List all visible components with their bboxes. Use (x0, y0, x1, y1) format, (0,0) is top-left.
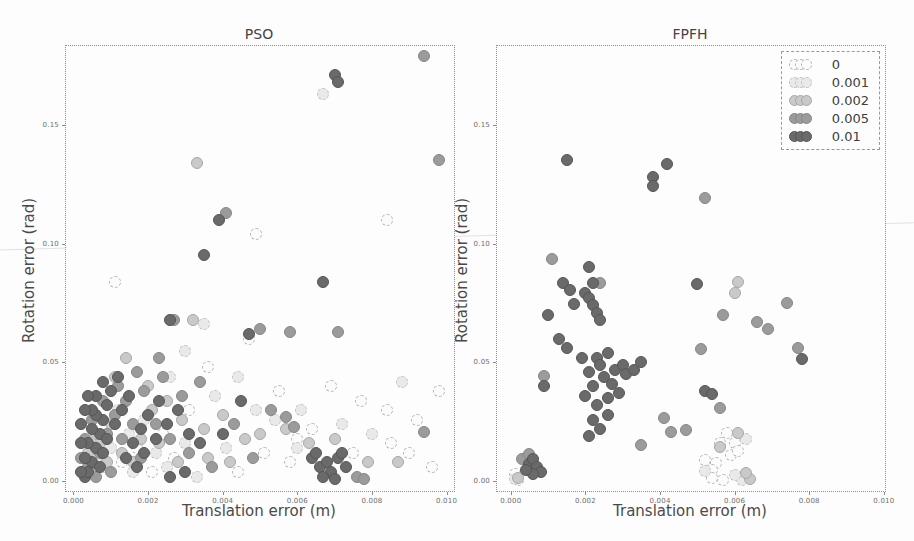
scatter-point-0 (385, 437, 397, 449)
scatter-point-0.01 (123, 390, 135, 402)
scatter-point-0 (250, 228, 262, 240)
scatter-point-0.01 (329, 473, 341, 485)
scatter-point-0.01 (587, 277, 599, 289)
scatter-point-0.002 (224, 456, 236, 468)
scatter-point-0 (109, 276, 121, 288)
scatter-point-0.005 (762, 323, 774, 335)
scatter-point-0.002 (329, 433, 341, 445)
scatter-point-0.001 (250, 404, 262, 416)
scatter-point-0 (717, 474, 729, 486)
y-tick-label: 0.00 (474, 477, 490, 485)
scatter-plot-pso: 0.0000.0020.0040.0060.0080.0100.000.050.… (65, 45, 455, 492)
scatter-point-0.005 (105, 466, 117, 478)
scatter-point-0.01 (79, 452, 91, 464)
scatter-point-0.005 (665, 426, 677, 438)
scatter-point-0.005 (717, 309, 729, 321)
scatter-point-0.01 (568, 298, 580, 310)
scatter-point-0.01 (561, 342, 573, 354)
scatter-point-0.002 (732, 427, 744, 439)
scatter-point-0.002 (714, 441, 726, 453)
scatter-point-0.005 (714, 402, 726, 414)
scatter-point-0.01 (198, 249, 210, 261)
y-tick-mark (62, 362, 65, 363)
scatter-point-0.002 (732, 276, 744, 288)
scatter-point-0.01 (310, 447, 322, 459)
legend-label: 0.001 (832, 75, 869, 90)
scatter-point-0.01 (602, 347, 614, 359)
legend-marker-icon (789, 59, 825, 70)
scatter-point-0.01 (142, 409, 154, 421)
scatter-point-0.005 (164, 433, 176, 445)
scatter-point-0.005 (699, 192, 711, 204)
scatter-point-0.002 (729, 287, 741, 299)
y-tick-mark (493, 362, 496, 363)
scatter-point-0 (433, 385, 445, 397)
legend-label: 0.005 (832, 111, 869, 126)
plot-title-pso: PSO (65, 26, 453, 42)
scatter-point-0.005 (695, 343, 707, 355)
scatter-point-0.01 (235, 395, 247, 407)
scatter-point-0.005 (635, 439, 647, 451)
scatter-point-0.01 (97, 447, 109, 459)
scatter-point-0.01 (576, 352, 588, 364)
scatter-point-0.01 (79, 404, 91, 416)
scatter-point-0 (146, 466, 158, 478)
scatter-point-0.002 (392, 456, 404, 468)
scatter-point-0 (325, 380, 337, 392)
scatter-point-0.001 (317, 88, 329, 100)
scatter-point-0.01 (75, 437, 87, 449)
scatter-point-0.001 (179, 345, 191, 357)
scatter-point-0.001 (209, 390, 221, 402)
x-axis-label-pso: Translation error (m) (65, 502, 453, 520)
scatter-point-0.001 (336, 418, 348, 430)
scatter-point-0.005 (658, 412, 670, 424)
scatter-point-0.005 (546, 253, 558, 265)
scatter-point-0.01 (561, 154, 573, 166)
scatter-point-0.005 (157, 371, 169, 383)
scatter-point-0.005 (358, 473, 370, 485)
x-tick-mark (148, 492, 149, 495)
scatter-point-0.01 (120, 452, 132, 464)
legend-label: 0.002 (832, 93, 869, 108)
scatter-point-0.01 (217, 428, 229, 440)
scatter-point-0.005 (680, 424, 692, 436)
y-tick-mark (62, 244, 65, 245)
scatter-point-0.01 (583, 261, 595, 273)
scatter-point-0.01 (75, 418, 87, 430)
y-axis-label-fpfh: Rotation error (rad) (455, 160, 469, 380)
scatter-point-0.005 (176, 390, 188, 402)
plot-title-fpfh: FPFH (496, 26, 884, 42)
x-tick-mark (372, 492, 373, 495)
scatter-point-0.005 (153, 352, 165, 364)
x-tick-mark (223, 492, 224, 495)
scatter-point-0.01 (594, 359, 606, 371)
scatter-point-0.005 (433, 154, 445, 166)
legend-entry: 0.001 (789, 75, 869, 90)
y-tick-label: 0.15 (474, 121, 490, 129)
scatter-point-0 (284, 456, 296, 468)
scatter-point-0.005 (194, 376, 206, 388)
scatter-point-0.002 (239, 433, 251, 445)
scatter-point-0.01 (116, 404, 128, 416)
scatter-point-0 (258, 447, 270, 459)
scatter-point-0.01 (317, 471, 329, 483)
scatter-point-0.01 (691, 278, 703, 290)
scatter-point-0.01 (594, 314, 606, 326)
y-tick-mark (493, 481, 496, 482)
scatter-point-0.01 (94, 461, 106, 473)
scatter-point-0.01 (194, 437, 206, 449)
scatter-point-0.01 (131, 461, 143, 473)
scatter-point-0.01 (564, 284, 576, 296)
scatter-point-0.002 (198, 423, 210, 435)
scatter-point-0.001 (198, 318, 210, 330)
scatter-point-0.005 (418, 50, 430, 62)
scatter-point-0.01 (594, 423, 606, 435)
scatter-point-0.01 (542, 309, 554, 321)
scatter-point-0.005 (418, 426, 430, 438)
legend-entry: 0.002 (789, 93, 869, 108)
y-tick-label: 0.15 (43, 121, 59, 129)
x-tick-mark (73, 492, 74, 495)
scatter-point-0 (426, 461, 438, 473)
scatter-point-0.005 (150, 418, 162, 430)
scatter-point-0.01 (86, 423, 98, 435)
